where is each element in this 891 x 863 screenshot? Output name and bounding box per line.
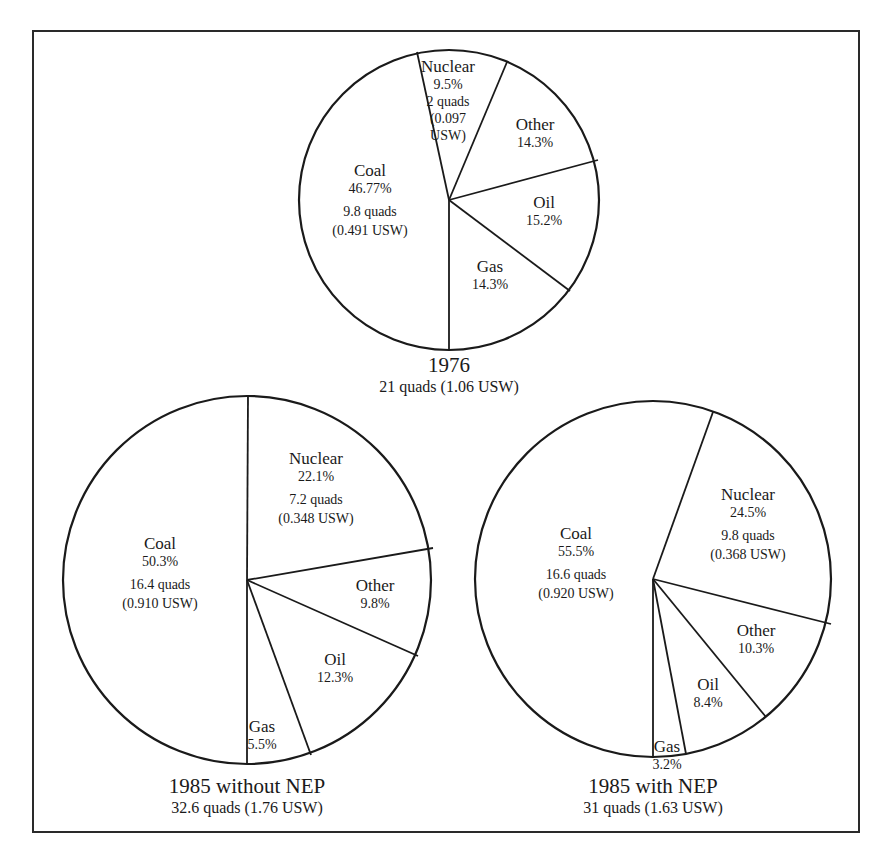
slice-value: 2 quads (426, 94, 469, 109)
slice-value: 16.6 quads (546, 567, 607, 582)
slice-value: 8.4% (693, 695, 723, 710)
slice-value: (0.368 USW) (710, 547, 786, 563)
slice-name: Nuclear (721, 485, 775, 504)
chart-subtitle: 32.6 quads (1.76 USW) (171, 799, 323, 817)
slice-value: 16.4 quads (130, 577, 191, 592)
slice-value: (0.910 USW) (122, 596, 198, 612)
slice-name: Other (737, 621, 776, 640)
slice-name: Coal (354, 161, 386, 180)
slice-value: (0.920 USW) (538, 586, 614, 602)
slice-value: 5.5% (247, 737, 277, 752)
slice-value: 3.2% (652, 757, 682, 772)
slice-label-other: Other9.8% (356, 576, 395, 611)
slice-name: Coal (144, 534, 176, 553)
slice-name: Oil (324, 650, 346, 669)
slice-label-gas: Gas14.3% (472, 257, 509, 292)
slice-name: Oil (697, 675, 719, 694)
slice-value: USW) (430, 128, 466, 144)
chart-title: 1985 with NEP (588, 774, 718, 798)
slice-value: 22.1% (298, 469, 335, 484)
pie-charts: Nuclear9.5%2 quads(0.097USW)Other14.3%Oi… (0, 0, 891, 863)
slice-value: (0.348 USW) (278, 511, 354, 527)
chart-title: 1976 (428, 353, 470, 377)
slice-value: 12.3% (317, 670, 354, 685)
slice-label-gas: Gas3.2% (652, 737, 682, 772)
slice-name: Other (356, 576, 395, 595)
slice-value: 9.8% (360, 596, 390, 611)
slice-name: Nuclear (289, 449, 343, 468)
slice-name: Gas (654, 737, 680, 756)
slice-value: 55.5% (558, 544, 595, 559)
chart-title: 1985 without NEP (169, 774, 325, 798)
pie-1976: Nuclear9.5%2 quads(0.097USW)Other14.3%Oi… (299, 50, 599, 396)
slice-name: Other (516, 115, 555, 134)
slice-value: 50.3% (142, 554, 179, 569)
slice-value: 14.3% (517, 135, 554, 150)
slice-name: Gas (477, 257, 503, 276)
slice-value: 10.3% (738, 641, 775, 656)
slice-label-gas: Gas5.5% (247, 717, 277, 752)
slice-value: (0.491 USW) (332, 223, 408, 239)
chart-subtitle: 21 quads (1.06 USW) (379, 378, 519, 396)
slice-name: Nuclear (421, 57, 475, 76)
slice-value: (0.097 (430, 111, 466, 127)
slice-divider (247, 396, 248, 580)
pie-1985-without-nep: Coal50.3%16.4 quads(0.910 USW)Nuclear22.… (63, 396, 433, 817)
slice-value: 9.8 quads (721, 528, 775, 543)
slice-value: 14.3% (472, 277, 509, 292)
slice-label-other: Other14.3% (516, 115, 555, 150)
slice-value: 24.5% (730, 505, 767, 520)
slice-value: 9.5% (433, 77, 463, 92)
slice-value: 46.77% (348, 181, 392, 196)
slice-value: 7.2 quads (289, 492, 343, 507)
slice-value: 15.2% (526, 213, 563, 228)
slice-name: Gas (249, 717, 275, 736)
chart-subtitle: 31 quads (1.63 USW) (583, 799, 723, 817)
slice-label-oil: Oil8.4% (693, 675, 723, 710)
slice-name: Coal (560, 524, 592, 543)
pie-1985-with-nep: Coal55.5%16.6 quads(0.920 USW)Nuclear24.… (475, 401, 831, 817)
slice-value: 9.8 quads (343, 204, 397, 219)
slice-name: Oil (533, 193, 555, 212)
slice-label-other: Other10.3% (737, 621, 776, 656)
